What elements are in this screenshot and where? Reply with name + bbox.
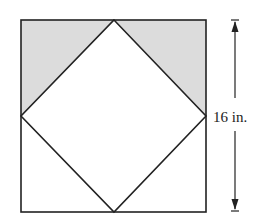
dimension-label: 16 in.: [213, 109, 247, 125]
arrow-head-up-icon: [232, 21, 239, 32]
diagram-canvas: 16 in.: [0, 0, 261, 222]
arrow-head-down-icon: [232, 199, 239, 210]
